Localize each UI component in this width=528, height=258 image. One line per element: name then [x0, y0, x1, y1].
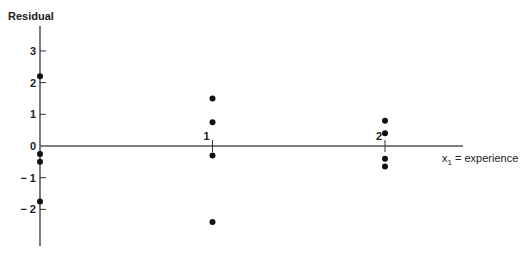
y-tick-label: 2: [30, 77, 36, 89]
data-point: [382, 156, 388, 162]
x-tick-label: 1: [203, 130, 209, 142]
data-point: [210, 153, 216, 159]
data-point: [382, 118, 388, 124]
data-point: [37, 159, 43, 165]
data-point: [37, 151, 43, 157]
x-ticks: 12: [203, 130, 385, 152]
data-point: [210, 219, 216, 225]
data-point: [382, 164, 388, 170]
y-tick-label: 0: [30, 140, 36, 152]
y-tick-label: 1: [30, 108, 36, 120]
y-tick-label: 3: [30, 45, 36, 57]
data-point: [37, 198, 43, 204]
x-axis-label: x1 = experience: [442, 152, 518, 167]
residual-plot: Residual 3210− 1− 2 12 x1 = experience: [0, 0, 528, 258]
y-tick-label: − 2: [20, 203, 36, 215]
y-ticks: 3210− 1− 2: [20, 45, 46, 216]
data-point: [210, 95, 216, 101]
data-point: [210, 119, 216, 125]
y-axis-label: Residual: [8, 10, 54, 22]
data-point: [382, 130, 388, 136]
data-point: [37, 73, 43, 79]
y-tick-label: − 1: [20, 172, 36, 184]
x-tick-label: 2: [376, 130, 382, 142]
